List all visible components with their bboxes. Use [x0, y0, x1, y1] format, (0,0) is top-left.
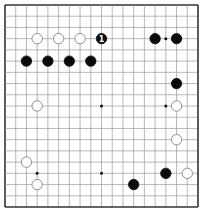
black-stone-disc	[171, 78, 181, 88]
white-stone[interactable]	[32, 101, 42, 111]
white-stone-disc	[21, 157, 31, 167]
white-stone-disc	[171, 134, 181, 144]
white-stone-disc	[32, 101, 42, 111]
white-stone-disc	[182, 168, 192, 178]
star-point	[36, 172, 39, 175]
white-stone[interactable]	[53, 33, 63, 43]
black-stone[interactable]	[64, 56, 74, 66]
black-stone-disc	[161, 168, 171, 178]
move-number-label: 1	[99, 35, 105, 44]
white-stone[interactable]	[32, 179, 42, 189]
white-stone-disc	[75, 33, 85, 43]
white-stone[interactable]	[171, 101, 181, 111]
black-stone-disc	[21, 56, 31, 66]
black-stone[interactable]	[161, 168, 171, 178]
white-stone[interactable]	[21, 157, 31, 167]
black-stone-disc	[64, 56, 74, 66]
star-point	[100, 172, 103, 175]
black-stone[interactable]: 1	[96, 33, 106, 43]
white-stone[interactable]	[171, 134, 181, 144]
black-stone[interactable]	[171, 33, 181, 43]
white-stone[interactable]	[75, 33, 85, 43]
black-stone-disc	[171, 33, 181, 43]
white-stone-disc	[32, 33, 42, 43]
black-stone[interactable]	[171, 78, 181, 88]
star-point	[164, 105, 167, 108]
black-stone[interactable]	[150, 33, 160, 43]
white-stone[interactable]	[182, 168, 192, 178]
white-stone[interactable]	[32, 33, 42, 43]
black-stone-disc	[86, 56, 96, 66]
black-stone-disc	[43, 56, 53, 66]
black-stone[interactable]	[86, 56, 96, 66]
white-stone-disc	[32, 179, 42, 189]
white-stone-disc	[53, 33, 63, 43]
go-board[interactable]: 1	[0, 0, 201, 212]
black-stone[interactable]	[21, 56, 31, 66]
black-stone[interactable]	[43, 56, 53, 66]
star-point	[164, 37, 167, 40]
black-stone-disc	[150, 33, 160, 43]
star-point	[100, 105, 103, 108]
black-stone-disc	[128, 179, 138, 189]
black-stone[interactable]	[128, 179, 138, 189]
white-stone-disc	[171, 101, 181, 111]
